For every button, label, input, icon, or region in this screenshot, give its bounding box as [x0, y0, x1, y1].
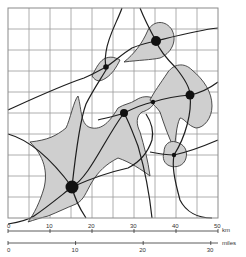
mile-tick-label: 20	[139, 247, 146, 253]
city-node-small-southeast	[172, 153, 176, 157]
urban-regions	[28, 23, 212, 223]
mile-tick-label: 0	[7, 247, 11, 253]
city-node-major-east	[186, 91, 195, 100]
region-east	[150, 65, 212, 148]
km-tick-label: 50	[214, 223, 221, 229]
city-node-small-center-east	[151, 100, 155, 104]
city-node-major-north	[151, 36, 161, 46]
scale-miles-label: miles	[222, 240, 236, 246]
km-tick-label: 30	[130, 223, 137, 229]
urban-region-map: km miles 010203040500102030	[0, 0, 246, 257]
scale-bar: km miles 010203040500102030	[7, 223, 236, 253]
region-southwest-conurbation	[28, 96, 155, 222]
city-node-mid-center	[120, 109, 128, 117]
scale-km-label: km	[222, 227, 230, 233]
city-node-major-southwest	[66, 181, 79, 194]
km-tick-label: 20	[88, 223, 95, 229]
mile-tick-label: 10	[72, 247, 79, 253]
km-tick-label: 40	[172, 223, 179, 229]
mile-tick-label: 30	[207, 247, 214, 253]
km-tick-label: 10	[46, 223, 53, 229]
city-node-small-northwest	[103, 64, 109, 70]
